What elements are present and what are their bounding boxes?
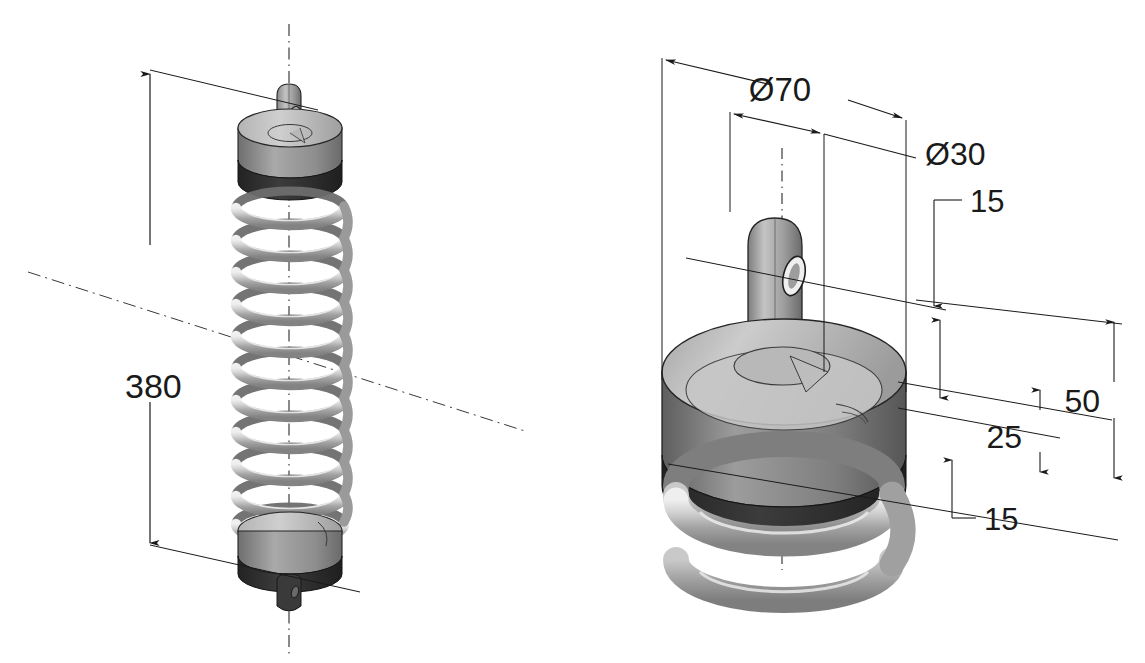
dim-d30-text: Ø30: [925, 136, 985, 172]
dimension-text-layer: 380 Ø70 Ø30 15 50 25 15: [0, 0, 1145, 663]
drawing-sheet: 380 Ø70 Ø30 15 50 25 15: [0, 0, 1145, 663]
dim-380-text: 380: [125, 367, 182, 405]
dim-50-text: 50: [1064, 383, 1100, 419]
dim-15-top-text: 15: [970, 184, 1004, 219]
dim-d70-text: Ø70: [749, 71, 811, 108]
dim-15-bottom-text: 15: [984, 502, 1018, 537]
dim-25-text: 25: [986, 419, 1022, 455]
